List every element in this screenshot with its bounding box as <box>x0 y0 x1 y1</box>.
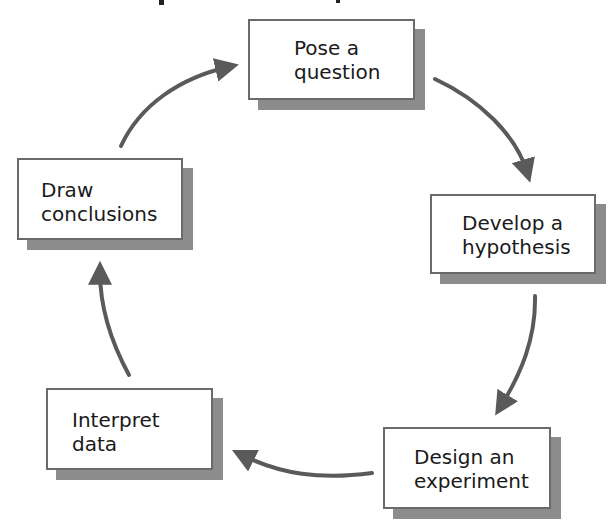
arrow-experiment-to-data <box>242 455 372 476</box>
step-label: Design an experiment <box>414 445 549 493</box>
step-develop-hypothesis: Develop a hypothesis <box>430 194 596 274</box>
step-interpret-data: Interpret data <box>46 388 213 470</box>
step-label: Develop a hypothesis <box>462 211 594 259</box>
arrow-hypothesis-to-experiment <box>501 296 535 406</box>
step-label: Interpret data <box>72 408 211 456</box>
arrow-conclusions-to-question <box>121 67 228 146</box>
step-draw-conclusions: Draw conclusions <box>17 158 183 240</box>
step-label: Pose a question <box>294 36 413 84</box>
step-label: Draw conclusions <box>41 178 181 226</box>
arrow-data-to-conclusions <box>100 272 129 375</box>
scientific-method-cycle-diagram: Pose a question Develop a hypothesis Des… <box>0 0 608 521</box>
step-design-experiment: Design an experiment <box>383 427 551 509</box>
step-pose-question: Pose a question <box>248 19 415 100</box>
arrow-question-to-hypothesis <box>435 79 527 172</box>
